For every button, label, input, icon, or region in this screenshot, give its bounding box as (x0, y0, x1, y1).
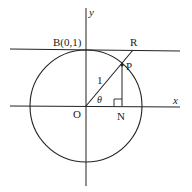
point-B-label: B(0,1) (53, 36, 82, 49)
angle-theta-label: θ (97, 94, 102, 105)
x-axis (10, 106, 180, 107)
radius-label: 1 (97, 74, 103, 86)
point-O-label: O (73, 108, 81, 120)
unit-circle-diagram: y x B(0,1) R P O N 1 θ (0, 0, 192, 192)
point-N-label: N (117, 110, 125, 122)
point-P (121, 64, 124, 67)
line-OR (86, 50, 133, 106)
right-angle-marker (114, 99, 122, 106)
y-axis-label: y (88, 6, 94, 18)
point-R-label: R (130, 36, 138, 48)
point-P-label: P (126, 60, 132, 72)
x-axis-label: x (172, 94, 178, 106)
